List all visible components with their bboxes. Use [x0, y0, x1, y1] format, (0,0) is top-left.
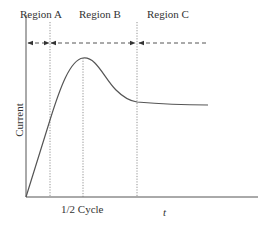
x-axis-label: t	[163, 206, 167, 218]
region-a-label: Region A	[20, 8, 62, 20]
current-transient-diagram: Region A Region B Region C Current 1/2 C…	[0, 0, 270, 226]
half-cycle-label: 1/2 Cycle	[61, 203, 104, 215]
current-curve	[26, 58, 208, 197]
y-axis-label: Current	[13, 103, 25, 137]
region-b-label: Region B	[79, 8, 121, 20]
region-c-label: Region C	[147, 8, 189, 20]
